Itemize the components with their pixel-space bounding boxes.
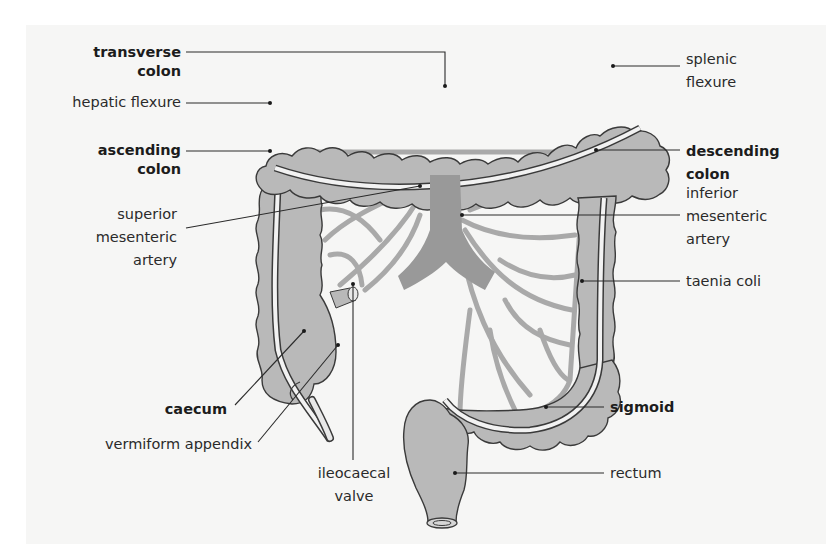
label-transverse-colon: transverse colon [60, 43, 181, 81]
label-line: valve [313, 485, 395, 508]
label-line: artery [60, 249, 177, 272]
label-rectum: rectum [610, 464, 662, 483]
label-line: hepatic flexure [40, 93, 181, 112]
label-line: ileocaecal [313, 462, 395, 485]
label-ileocaecal-valve: ileocaecal valve [313, 462, 395, 508]
label-line: mesenteric [686, 205, 767, 228]
label-splenic-flexure: splenic flexure [686, 48, 737, 94]
label-taenia-coli: taenia coli [686, 272, 761, 291]
ileocaecal-valve-shape [330, 287, 358, 308]
label-line: colon [60, 160, 181, 179]
label-vermiform-appendix: vermiform appendix [60, 435, 252, 454]
label-ascending-colon: ascending colon [60, 141, 181, 179]
label-line: inferior [686, 182, 767, 205]
label-line: caecum [110, 400, 227, 419]
label-line: transverse [60, 43, 181, 62]
label-line: mesenteric [60, 226, 177, 249]
label-line: taenia coli [686, 272, 761, 291]
label-descending-colon: descending colon [686, 140, 780, 186]
label-line: flexure [686, 71, 737, 94]
label-inferior-mesenteric-artery: inferior mesenteric artery [686, 182, 767, 251]
ascending-colon-shape [256, 178, 336, 440]
label-line: vermiform appendix [60, 435, 252, 454]
label-line: artery [686, 228, 767, 251]
rectum-shape [404, 400, 469, 528]
label-superior-mesenteric-artery: superior mesenteric artery [60, 203, 177, 272]
label-line: superior [60, 203, 177, 226]
label-line: sigmoid [610, 398, 674, 417]
label-line: rectum [610, 464, 662, 483]
label-caecum: caecum [110, 400, 227, 419]
label-hepatic-flexure: hepatic flexure [40, 93, 181, 112]
label-sigmoid: sigmoid [610, 398, 674, 417]
label-line: colon [60, 62, 181, 81]
label-line: descending [686, 140, 780, 163]
label-line: ascending [60, 141, 181, 160]
label-line: splenic [686, 48, 737, 71]
